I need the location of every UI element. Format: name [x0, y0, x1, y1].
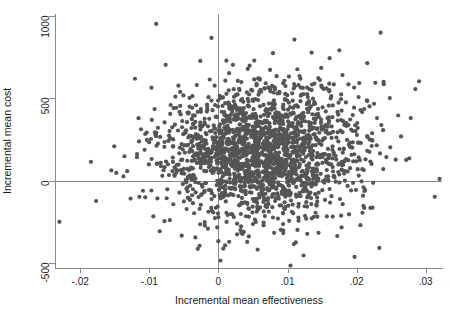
y-axis-title: Incremental mean cost — [0, 14, 14, 268]
y-tick-label: 1000 — [40, 15, 51, 55]
x-tick-label: .02 — [337, 276, 377, 287]
y-tick-label: 0 — [40, 180, 51, 220]
x-tick-label: 0 — [198, 276, 238, 287]
x-tick-label: -.01 — [129, 276, 169, 287]
x-tick-mark — [357, 268, 358, 273]
y-axis-spine — [55, 14, 56, 268]
y-tick-label: 500 — [40, 98, 51, 138]
x-tick-mark — [149, 268, 150, 273]
x-tick-mark — [80, 268, 81, 273]
scatter-plot-figure: -50005001000 -.02-.010.01.02.03 Incremen… — [0, 0, 457, 316]
x-axis-title: Incremental mean effectiveness — [55, 294, 443, 306]
plot-area — [56, 14, 443, 268]
scatter-points-layer — [56, 14, 443, 268]
x-tick-label: .01 — [268, 276, 308, 287]
x-axis-spine — [55, 268, 443, 269]
x-tick-label: .03 — [406, 276, 446, 287]
x-tick-label: -.02 — [60, 276, 100, 287]
x-tick-mark — [426, 268, 427, 273]
y-tick-label: -500 — [40, 263, 51, 303]
x-tick-mark — [288, 268, 289, 273]
x-tick-mark — [218, 268, 219, 273]
